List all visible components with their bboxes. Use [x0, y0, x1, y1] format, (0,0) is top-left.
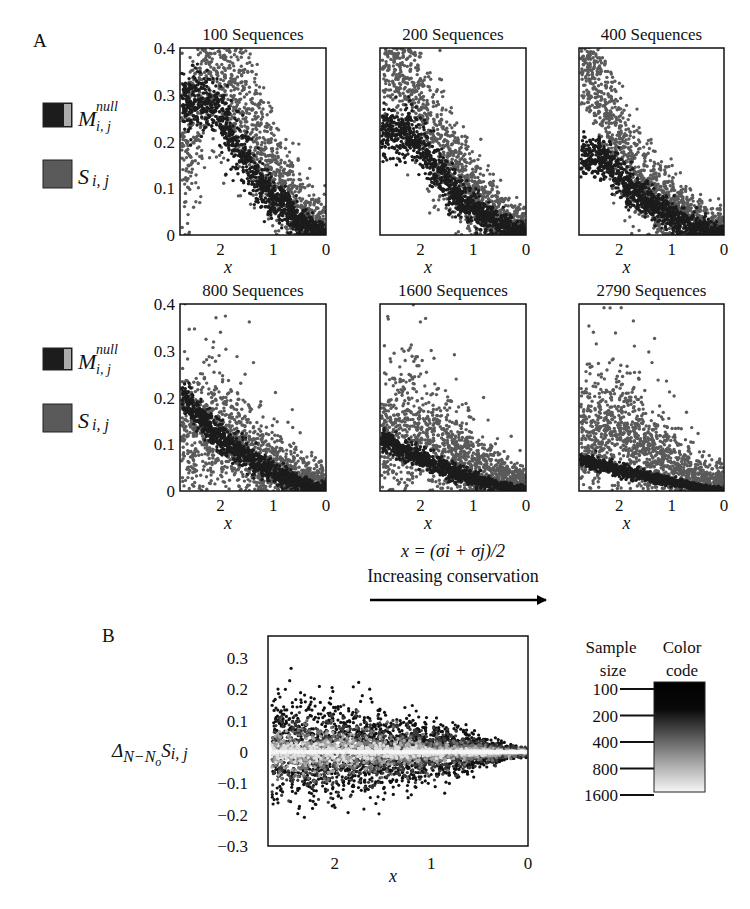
data-point [454, 723, 457, 726]
data-point [365, 725, 368, 728]
data-point [285, 218, 288, 221]
data-point [395, 780, 398, 783]
data-point [395, 106, 398, 109]
data-point [211, 137, 214, 140]
data-point [711, 212, 714, 215]
data-point [379, 745, 382, 748]
data-point [401, 113, 404, 116]
data-point [211, 453, 214, 456]
data-point [417, 173, 420, 176]
data-point [190, 182, 193, 185]
data-point [478, 457, 481, 460]
data-point [389, 436, 392, 439]
data-point [386, 745, 389, 748]
data-point [669, 467, 672, 470]
data-point [255, 441, 258, 444]
data-point [390, 773, 393, 776]
y-tick-label: 0 [240, 743, 249, 762]
data-point [308, 729, 311, 732]
data-point [597, 486, 600, 489]
data-point [637, 126, 640, 129]
data-point [396, 413, 399, 416]
data-point [214, 458, 217, 461]
data-point [335, 735, 338, 738]
data-point [613, 122, 616, 125]
data-point [382, 22, 385, 25]
data-point [407, 122, 410, 125]
data-point [437, 456, 440, 459]
data-point [403, 124, 406, 127]
data-point [604, 127, 607, 130]
data-point [389, 1, 392, 4]
data-point [365, 721, 368, 724]
data-point [258, 85, 261, 88]
data-point [432, 720, 435, 723]
data-point [285, 778, 288, 781]
data-point [690, 426, 693, 429]
data-point [407, 444, 410, 447]
data-point [259, 92, 262, 95]
data-point [436, 775, 439, 778]
data-point [321, 781, 324, 784]
data-point [399, 94, 402, 97]
data-point [451, 142, 454, 145]
data-point [186, 106, 189, 109]
data-point [436, 760, 439, 763]
data-point [225, 108, 228, 111]
data-point [434, 480, 437, 483]
data-point [279, 194, 282, 197]
data-point [255, 197, 258, 200]
data-point [294, 224, 297, 227]
data-point [453, 472, 456, 475]
x-tick-label: 0 [720, 496, 729, 515]
data-point [417, 715, 420, 718]
data-point [404, 439, 407, 442]
data-point [585, 8, 588, 11]
data-point [189, 122, 192, 125]
data-point [228, 148, 231, 151]
data-point [494, 764, 497, 767]
data-point [264, 145, 267, 148]
data-point [210, 470, 213, 473]
data-point [452, 130, 455, 133]
data-point [398, 458, 401, 461]
data-point [240, 408, 243, 411]
data-point [195, 449, 198, 452]
data-point [599, 70, 602, 73]
data-point [585, 387, 588, 390]
data-point [467, 409, 470, 412]
data-point [436, 180, 439, 183]
data-point [230, 4, 233, 7]
data-point [411, 704, 414, 707]
data-point [383, 791, 386, 794]
data-point [487, 197, 490, 200]
data-point [505, 485, 508, 488]
data-point [215, 1, 218, 4]
data-point [269, 138, 272, 141]
data-point [472, 418, 475, 421]
data-point [651, 194, 654, 197]
data-point [440, 147, 443, 150]
data-point [284, 465, 287, 468]
data-point [384, 30, 387, 33]
data-point [191, 60, 194, 63]
data-point [237, 467, 240, 470]
data-point [252, 449, 255, 452]
data-point [619, 436, 622, 439]
data-point [608, 467, 611, 470]
data-point [465, 422, 468, 425]
data-point [315, 746, 318, 749]
data-point [700, 200, 703, 203]
data-point [489, 459, 492, 462]
data-point [308, 469, 311, 472]
data-point [414, 422, 417, 425]
data-point [623, 468, 626, 471]
colorbar-ticks: 1002004008001600 [584, 680, 654, 805]
data-point [305, 737, 308, 740]
data-point [394, 407, 397, 410]
data-point [488, 172, 491, 175]
data-point [391, 0, 394, 1]
data-point [445, 764, 448, 767]
data-point [212, 421, 215, 424]
data-point [187, 381, 190, 384]
